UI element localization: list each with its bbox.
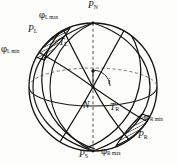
terminator-left-arc bbox=[40, 53, 93, 87]
label-inclination-angle: i bbox=[108, 77, 111, 86]
label-pole-left: PL bbox=[28, 25, 37, 35]
sphere-diagram-svg bbox=[0, 0, 178, 164]
node-point bbox=[91, 85, 94, 88]
label-phi-r-max: φR max bbox=[101, 147, 121, 157]
great-circle-orbit-b bbox=[63, 29, 130, 141]
label-pole-north: PN bbox=[88, 1, 98, 11]
label-node: N bbox=[83, 101, 89, 111]
north-pole-point bbox=[92, 22, 95, 25]
label-phi-l-min: φL min bbox=[1, 45, 19, 55]
label-phi-r-min: φR min bbox=[144, 113, 163, 123]
label-terminator-right: TR bbox=[110, 103, 119, 113]
celestial-sphere-figure: PN φL max PL φL min TL N i TR φR min PR … bbox=[0, 0, 178, 164]
label-pole-south: PS bbox=[79, 150, 88, 160]
south-pole-point bbox=[92, 150, 95, 153]
label-terminator-left: TL bbox=[59, 38, 68, 48]
label-pole-right: PR bbox=[138, 131, 148, 141]
label-phi-l-max: φL max bbox=[39, 11, 58, 21]
